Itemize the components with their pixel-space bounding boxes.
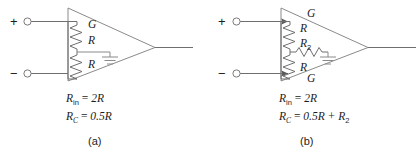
eq-rin-rhs-b: 2R: [304, 92, 317, 104]
eq-rin-lhs: R: [65, 92, 73, 104]
minus-terminal-node: [24, 70, 31, 77]
panel-a-plus-terminal: +: [10, 14, 68, 29]
panel-b: + −: [218, 7, 416, 147]
panel-a-equations: Rin = 2R RC = 0.5R: [65, 92, 112, 125]
plus-terminal-label-b: +: [218, 14, 226, 29]
panel-a: + −: [10, 8, 193, 147]
panel-b-resistor-top-label: R: [299, 22, 307, 34]
figure-container: + −: [0, 0, 419, 156]
panel-a-amplifier-triangle: [68, 8, 193, 81]
panel-a-caption: (a): [88, 135, 101, 147]
resistor-series-sub: 2: [307, 43, 311, 52]
panel-a-gain-label: G: [88, 18, 97, 30]
eq-rc-lhs: R: [65, 110, 73, 122]
panel-b-caption: (b): [300, 135, 313, 147]
resistor-top-symbol: [68, 22, 82, 53]
minus-terminal-label-b: −: [218, 66, 226, 81]
panel-a-equation-rin: Rin = 2R: [65, 92, 104, 107]
panel-b-minus-terminal: −: [218, 66, 288, 81]
resistor-series-letter: R: [299, 37, 307, 49]
panel-b-resistor-bottom-label: R: [299, 61, 307, 73]
eq-rc-rhs-sub-b: 2: [345, 116, 349, 125]
panel-b-gain-label-bottom: G: [307, 72, 316, 84]
panel-b-ground: [320, 52, 336, 64]
panel-a-minus-terminal: −: [10, 66, 68, 81]
panel-b-gain-label-top: G: [307, 7, 316, 19]
panel-b-equations: Rin = 2R RC = 0.5R + R2: [278, 92, 349, 125]
eq-rc-rhs: 0.5R: [90, 110, 111, 122]
plus-terminal-node: [24, 18, 31, 25]
amplifier-body: [68, 8, 155, 81]
eq-rc-rhs-b: 0.5R + R: [303, 110, 345, 122]
panel-a-resistor-top: [68, 22, 82, 53]
plus-terminal-label: +: [10, 14, 18, 29]
panel-b-resistor-top-symbol: [281, 22, 295, 53]
eq-rin-lhs-b: R: [278, 92, 286, 104]
panel-b-equation-rin: Rin = 2R: [278, 92, 317, 107]
panel-b-plus-terminal: +: [218, 14, 288, 29]
panel-b-resistor-series-label: R2: [299, 37, 311, 52]
eq-rc-lhs-b: R: [278, 110, 286, 122]
plus-terminal-node-b: [233, 18, 240, 25]
panel-a-resistor-bottom-label: R: [87, 58, 95, 70]
eq-rin-rhs: 2R: [91, 92, 104, 104]
circuit-diagram-svg: + −: [0, 0, 419, 156]
minus-terminal-label: −: [10, 66, 18, 81]
resistor-bottom-symbol: [68, 52, 82, 79]
minus-terminal-node-b: [233, 70, 240, 77]
panel-a-equation-rc: RC = 0.5R: [65, 110, 112, 125]
amplifier-body-b: [281, 8, 368, 81]
panel-a-resistor-bottom: [68, 52, 82, 79]
panel-b-equation-rc: RC = 0.5R + R2: [278, 110, 349, 125]
panel-a-resistor-top-label: R: [87, 34, 95, 46]
panel-a-ground: [77, 52, 118, 64]
